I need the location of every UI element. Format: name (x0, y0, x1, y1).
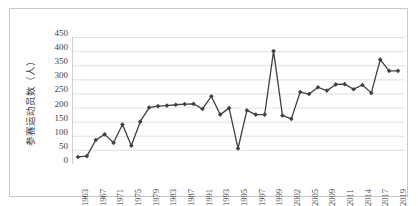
data-point-marker (173, 102, 178, 107)
x-tick-label: 1987 (187, 189, 196, 206)
y-tick-label: 350 (55, 57, 69, 66)
data-point-marker (289, 117, 294, 122)
x-tick-label: 2014 (364, 189, 373, 206)
data-point-marker (120, 122, 125, 127)
data-point-marker (182, 102, 187, 107)
y-axis-tick-labels: 050100150200250300350400450 (40, 33, 68, 167)
y-tick-label: 0 (64, 156, 69, 165)
x-tick-label: 1999 (275, 189, 284, 206)
x-axis-tick-labels: 1963196719711975197919831987199119931995… (72, 166, 404, 206)
x-tick-label: 1963 (81, 189, 90, 206)
x-tick-label: 1993 (222, 189, 231, 206)
y-tick-label: 450 (55, 29, 69, 38)
x-tick-label: 1991 (205, 189, 214, 206)
y-tick-label: 250 (55, 85, 69, 94)
x-tick-label: 1983 (169, 189, 178, 206)
y-tick-label: 100 (55, 128, 69, 137)
x-tick-label: 2017 (381, 189, 390, 206)
x-tick-label: 2011 (346, 189, 355, 206)
y-tick-label: 200 (55, 100, 69, 109)
x-tick-label: 2019 (399, 189, 408, 206)
data-series-line (78, 51, 398, 157)
data-point-marker (396, 69, 401, 74)
y-tick-label: 300 (55, 71, 69, 80)
x-tick-label: 1997 (258, 189, 267, 206)
line-chart-svg (73, 37, 405, 164)
y-tick-label: 150 (55, 114, 69, 123)
x-tick-label: 1979 (152, 189, 161, 206)
y-axis-title: 参赛运动员数（人） (24, 37, 38, 165)
data-point-marker (165, 103, 170, 108)
x-tick-label: 1971 (116, 189, 125, 206)
data-point-marker (271, 49, 276, 54)
data-point-marker (129, 143, 134, 148)
x-tick-label: 1995 (240, 189, 249, 206)
data-point-marker (280, 113, 285, 118)
x-tick-label: 2009 (328, 189, 337, 206)
x-tick-label: 2002 (293, 189, 302, 206)
data-point-marker (262, 112, 267, 117)
plot-area (72, 37, 404, 164)
data-point-marker (76, 155, 81, 160)
y-tick-label: 400 (55, 43, 69, 52)
x-tick-label: 1975 (134, 189, 143, 206)
y-tick-label: 50 (59, 142, 68, 151)
data-point-marker (253, 112, 258, 117)
chart-frame: 参赛运动员数（人） 050100150200250300350400450 19… (9, 8, 408, 197)
data-point-marker (245, 108, 250, 113)
x-tick-label: 1967 (99, 189, 108, 206)
x-tick-label: 2005 (311, 189, 320, 206)
